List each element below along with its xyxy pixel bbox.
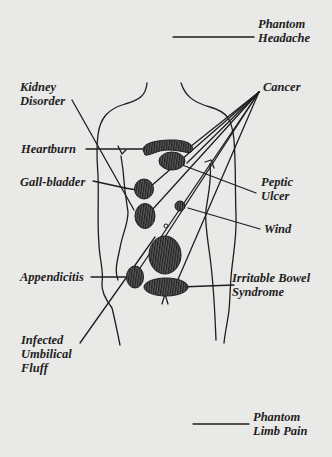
- label-peptic-ulcer: Peptic Ulcer: [261, 175, 293, 203]
- label-gall-bladder: Gall-bladder: [20, 175, 85, 189]
- kidney-disorder-leader: [72, 100, 134, 210]
- arm-inner-left: [116, 156, 128, 280]
- label-wind: Wind: [264, 222, 291, 236]
- label-heartburn: Heartburn: [21, 142, 76, 156]
- arm-inner-left-tip: [118, 146, 126, 154]
- organ-large: [149, 236, 181, 274]
- label-kidney-disorder: Kidney Disorder: [20, 80, 65, 108]
- organ-peptic-ulcer: [159, 152, 185, 170]
- label-infected-umbilical-fluff: Infected Umbilical Fluff: [21, 333, 72, 375]
- organ-bowel: [144, 278, 188, 296]
- label-appendicitis: Appendicitis: [20, 270, 84, 284]
- label-cancer: Cancer: [263, 80, 301, 94]
- peptic-ulcer-leader: [177, 163, 256, 193]
- organ-gall-bladder: [135, 179, 154, 199]
- label-irritable-bowel-syndrome: Irritable Bowel Syndrome: [232, 271, 310, 299]
- organ-kidney: [135, 204, 155, 229]
- wind-leader: [188, 208, 260, 229]
- organ-small-dot: [164, 224, 168, 228]
- arm-inner-right: [206, 164, 216, 340]
- organ-appendix: [127, 266, 144, 288]
- umbilical-fluff-leader: [80, 237, 155, 343]
- label-phantom-limb-pain: Phantom Limb Pain: [253, 410, 308, 438]
- label-phantom-headache: Phantom Headache: [258, 17, 310, 45]
- organ-wind: [175, 201, 185, 211]
